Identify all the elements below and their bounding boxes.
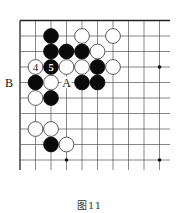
- white-stone: [28, 122, 43, 137]
- black-stone: 5: [44, 60, 59, 75]
- white-stone: [44, 122, 59, 137]
- black-stone: [44, 44, 59, 59]
- white-stone: [59, 60, 74, 75]
- white-stone: [90, 44, 105, 59]
- black-stone: [59, 44, 74, 59]
- black-stone: [90, 60, 105, 75]
- white-stone: [106, 60, 121, 75]
- black-stone: [44, 91, 59, 106]
- white-stone: 4: [28, 60, 43, 75]
- move-number-label: 4: [33, 62, 39, 73]
- black-stone: [28, 75, 43, 90]
- star-point-icon: [158, 65, 162, 69]
- point-label-b: B: [5, 76, 13, 90]
- black-stone: [44, 29, 59, 44]
- go-board-diagram: AB 45: [0, 0, 179, 190]
- black-stone: [75, 44, 90, 59]
- black-stone: [44, 137, 59, 152]
- black-stone: [75, 75, 90, 90]
- white-stone: [59, 137, 74, 152]
- stones: 45: [28, 29, 120, 152]
- point-label-a: A: [62, 76, 71, 90]
- move-number-label: 5: [48, 62, 53, 73]
- star-point-icon: [158, 158, 162, 162]
- figure-caption: 图11: [0, 197, 179, 212]
- white-stone: [75, 29, 90, 44]
- white-stone: [75, 60, 90, 75]
- star-point-icon: [65, 158, 69, 162]
- white-stone: [44, 75, 59, 90]
- white-stone: [28, 91, 43, 106]
- black-stone: [90, 75, 105, 90]
- white-stone: [106, 29, 121, 44]
